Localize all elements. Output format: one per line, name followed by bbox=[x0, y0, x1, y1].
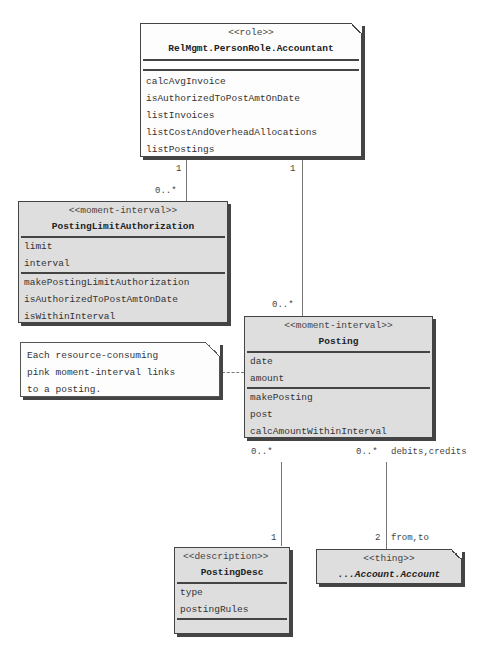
class-stereotype: <<thing>> bbox=[317, 550, 461, 567]
mult-posting-desc-target: 1 bbox=[271, 533, 276, 543]
folded-corner bbox=[206, 342, 220, 356]
attribute-item: type bbox=[175, 584, 289, 601]
operation-item: makePostingLimitAuthorization bbox=[19, 274, 227, 291]
attribute-item: interval bbox=[19, 255, 227, 272]
operation-item: listInvoices bbox=[141, 107, 361, 124]
note-line: to a posting. bbox=[27, 381, 213, 398]
assoc-posting-account-line bbox=[386, 462, 387, 549]
operation-separator bbox=[177, 618, 287, 620]
note-resource-consuming[interactable]: Each resource-consuming pink moment-inte… bbox=[20, 342, 220, 397]
assoc-accountant-pla-line bbox=[186, 156, 187, 201]
class-account[interactable]: <<thing>> ...Account.Account bbox=[316, 549, 462, 584]
mult-posting-account-target: 2 bbox=[375, 533, 380, 543]
class-name: PostingDesc bbox=[175, 565, 289, 580]
operation-item: isAuthorizedToPostAmtOnDate bbox=[19, 291, 227, 308]
attribute-item: date bbox=[245, 353, 432, 370]
mult-posting-desc-source: 0..* bbox=[251, 447, 273, 457]
mult-accountant-posting-target: 0..* bbox=[272, 300, 294, 310]
attribute-item: postingRules bbox=[175, 601, 289, 618]
class-posting[interactable]: <<moment-interval>> Posting date amount … bbox=[244, 316, 433, 438]
class-name: Posting bbox=[245, 334, 432, 349]
operation-item: isWithinInterval bbox=[19, 308, 227, 325]
class-name: ...Account.Account bbox=[317, 567, 461, 582]
class-stereotype: <<description>> bbox=[175, 548, 289, 565]
folded-corner bbox=[452, 549, 462, 559]
attribute-item: limit bbox=[19, 238, 227, 255]
class-posting-limit-authorization[interactable]: <<moment-interval>> PostingLimitAuthoriz… bbox=[18, 201, 228, 323]
mult-accountant-posting-source: 1 bbox=[290, 164, 295, 174]
attribute-item: amount bbox=[245, 370, 432, 387]
note-line: pink moment-interval links bbox=[27, 364, 213, 381]
mult-posting-account-source: 0..* bbox=[356, 447, 378, 457]
class-posting-desc[interactable]: <<description>> PostingDesc type posting… bbox=[174, 547, 290, 634]
role-posting-account-source: debits,credits bbox=[391, 447, 467, 457]
class-accountant[interactable]: <<role>> RelMgmt.PersonRole.Accountant c… bbox=[140, 23, 362, 157]
operation-item: listCostAndOverheadAllocations bbox=[141, 124, 361, 141]
mult-accountant-pla-target: 0..* bbox=[155, 186, 177, 196]
class-name: PostingLimitAuthorization bbox=[19, 219, 227, 234]
role-posting-account-target: from,to bbox=[391, 533, 429, 543]
class-name: RelMgmt.PersonRole.Accountant bbox=[141, 41, 361, 56]
attribute-separator bbox=[143, 59, 359, 61]
operation-item: post bbox=[245, 406, 432, 423]
folded-corner bbox=[352, 23, 362, 33]
mult-accountant-pla-source: 1 bbox=[176, 164, 181, 174]
assoc-accountant-posting-line bbox=[302, 156, 303, 316]
class-stereotype: <<moment-interval>> bbox=[19, 202, 227, 219]
operation-item: isAuthorizedToPostAmtOnDate bbox=[141, 90, 361, 107]
assoc-posting-desc-line bbox=[281, 462, 282, 546]
operation-item: makePosting bbox=[245, 389, 432, 406]
operation-separator bbox=[143, 69, 359, 71]
class-stereotype: <<role>> bbox=[141, 24, 361, 41]
note-line: Each resource-consuming bbox=[27, 347, 213, 364]
operation-item: listPostings bbox=[141, 141, 361, 158]
operation-item: calcAvgInvoice bbox=[141, 73, 361, 90]
note-anchor-line bbox=[222, 372, 244, 373]
class-stereotype: <<moment-interval>> bbox=[245, 317, 432, 334]
operation-item: calcAmountWithinInterval bbox=[245, 423, 432, 440]
